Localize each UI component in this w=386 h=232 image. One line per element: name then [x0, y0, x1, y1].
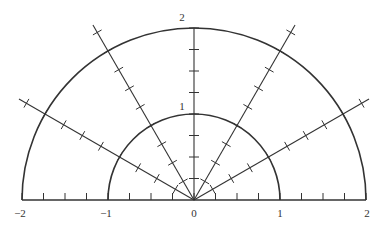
ray-tick: [229, 174, 234, 183]
ray-tick: [266, 153, 271, 162]
ray-tick: [136, 163, 141, 172]
ray-tick: [136, 104, 145, 109]
ray-tick: [24, 99, 29, 108]
ray-tick: [303, 131, 308, 140]
ray-tick: [98, 142, 103, 151]
ray-tick: [200, 179, 209, 184]
x-label-2: 2: [364, 207, 370, 219]
ray-tick: [222, 142, 231, 147]
x-label-neg1: −1: [100, 207, 112, 219]
ray-tick: [340, 110, 345, 119]
ray-tick: [157, 142, 166, 147]
ray-tick: [147, 123, 156, 128]
ray-tick: [104, 49, 113, 54]
ray-tick: [61, 120, 66, 129]
ray-tick: [265, 67, 274, 72]
ray-tick: [117, 153, 122, 162]
ray-tick: [322, 120, 327, 129]
ray-tick: [168, 160, 177, 165]
ray-tick: [93, 30, 102, 35]
ray-tick: [173, 185, 178, 194]
ray-tick: [285, 142, 290, 151]
x-label-1: 1: [277, 207, 283, 219]
ray-tick: [243, 104, 252, 109]
ray-tick: [179, 179, 188, 184]
y-label-1: 1: [179, 100, 185, 112]
x-label-neg2: −2: [14, 207, 26, 219]
ray-tick: [359, 99, 364, 108]
polar-grid: [0, 0, 386, 232]
ray-tick: [210, 185, 215, 194]
ray-tick: [80, 131, 85, 140]
ray-tick: [211, 160, 220, 165]
y-label-2: 2: [179, 11, 185, 23]
ray-tick: [43, 110, 48, 119]
ray-tick: [233, 123, 242, 128]
ray-tick: [276, 49, 285, 54]
ray-tick: [254, 86, 263, 91]
ray-tick: [114, 67, 123, 72]
ray-tick: [286, 30, 295, 35]
ray-tick: [125, 86, 134, 91]
x-label-0: 0: [191, 207, 197, 219]
ray-tick: [247, 163, 252, 172]
ray-tick: [154, 174, 159, 183]
